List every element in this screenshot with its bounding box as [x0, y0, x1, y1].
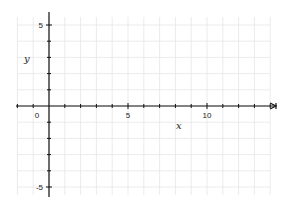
x-tick-label: 5 — [126, 111, 131, 120]
coordinate-plane: 05105-5 x y — [0, 0, 288, 207]
y-tick-label: 5 — [39, 21, 44, 30]
y-axis-label: y — [23, 53, 30, 64]
y-tick-label: -5 — [36, 183, 44, 192]
x-axis-label: x — [176, 120, 182, 131]
axes — [16, 12, 276, 197]
x-tick-label: 0 — [35, 111, 40, 120]
x-tick-label: 10 — [203, 111, 212, 120]
